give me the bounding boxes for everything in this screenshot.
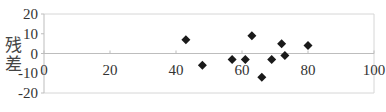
x-tick-label: 60 [235, 62, 250, 78]
residual-scatter-chart: 20100-10-20 020406080100 [0, 0, 386, 112]
y-axis-ticks: 20100-10-20 [18, 6, 44, 101]
y-tick-label: -10 [18, 65, 38, 81]
y-tick-label: 0 [31, 46, 39, 62]
diamond-marker [181, 35, 190, 44]
y-tick-label: -20 [18, 85, 38, 101]
x-tick-label: 100 [363, 62, 386, 78]
diamond-marker [198, 61, 207, 70]
y-tick-label: 20 [23, 6, 38, 22]
diamond-marker [280, 51, 289, 60]
diamond-marker [257, 73, 266, 82]
plot-frame [44, 14, 374, 93]
diamond-marker [277, 39, 286, 48]
diamond-marker [247, 31, 256, 40]
x-tick-label: 80 [301, 62, 316, 78]
diamond-marker [304, 41, 313, 50]
x-tick-label: 20 [103, 62, 118, 78]
x-axis-ticks: 020406080100 [40, 51, 385, 78]
y-tick-label: 10 [23, 26, 38, 42]
x-tick-label: 40 [169, 62, 184, 78]
diamond-marker [267, 55, 276, 64]
x-tick-label: 0 [40, 62, 48, 78]
